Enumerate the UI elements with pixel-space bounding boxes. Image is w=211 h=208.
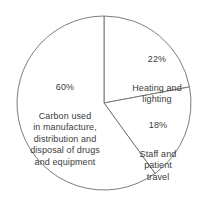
pie-label-carbon-percent: 60% (8, 82, 122, 94)
pie-label-heating: 22% Heating and lighting (112, 42, 202, 117)
pie-label-travel: 18% Staff and patient travel (124, 108, 192, 195)
pie-label-carbon-text: Carbon used in manufacture, distribution… (8, 111, 122, 169)
pie-label-heating-text: Heating and lighting (112, 83, 202, 106)
pie-label-carbon: 60% Carbon used in manufacture, distribu… (8, 70, 122, 180)
pie-label-travel-text: Staff and patient travel (124, 149, 192, 184)
pie-label-travel-percent: 18% (124, 120, 192, 132)
pie-label-heating-percent: 22% (112, 54, 202, 66)
pie-chart: 60% Carbon used in manufacture, distribu… (0, 0, 211, 208)
